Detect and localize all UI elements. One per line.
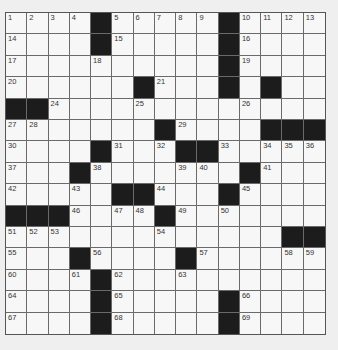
grid-cell[interactable]: [134, 120, 155, 141]
grid-cell[interactable]: 26: [240, 99, 261, 120]
grid-cell[interactable]: [282, 291, 303, 312]
grid-cell[interactable]: 66: [240, 291, 261, 312]
grid-cell[interactable]: [27, 56, 48, 77]
grid-cell[interactable]: [261, 291, 282, 312]
grid-cell[interactable]: 47: [112, 206, 133, 227]
grid-cell[interactable]: 15: [112, 34, 133, 55]
grid-cell[interactable]: [112, 163, 133, 184]
grid-cell[interactable]: [282, 270, 303, 291]
grid-cell[interactable]: 48: [134, 206, 155, 227]
grid-cell[interactable]: [70, 291, 91, 312]
grid-cell[interactable]: [197, 184, 218, 205]
grid-cell[interactable]: 14: [6, 34, 27, 55]
grid-cell[interactable]: [134, 248, 155, 269]
grid-cell[interactable]: 17: [6, 56, 27, 77]
grid-cell[interactable]: 57: [197, 248, 218, 269]
grid-cell[interactable]: 45: [240, 184, 261, 205]
grid-cell[interactable]: 18: [91, 56, 112, 77]
grid-cell[interactable]: [282, 56, 303, 77]
grid-cell[interactable]: 34: [261, 141, 282, 162]
grid-cell[interactable]: 30: [6, 141, 27, 162]
grid-cell[interactable]: [49, 141, 70, 162]
grid-cell[interactable]: 19: [240, 56, 261, 77]
grid-cell[interactable]: [70, 56, 91, 77]
grid-cell[interactable]: 51: [6, 227, 27, 248]
grid-cell[interactable]: [134, 291, 155, 312]
grid-cell[interactable]: 67: [6, 313, 27, 334]
grid-cell[interactable]: [282, 163, 303, 184]
grid-cell[interactable]: 27: [6, 120, 27, 141]
grid-cell[interactable]: 25: [134, 99, 155, 120]
grid-cell[interactable]: [49, 56, 70, 77]
grid-cell[interactable]: [261, 184, 282, 205]
grid-cell[interactable]: 64: [6, 291, 27, 312]
grid-cell[interactable]: 60: [6, 270, 27, 291]
grid-cell[interactable]: [219, 227, 240, 248]
grid-cell[interactable]: [134, 270, 155, 291]
grid-cell[interactable]: [304, 270, 325, 291]
grid-cell[interactable]: [49, 291, 70, 312]
grid-cell[interactable]: 53: [49, 227, 70, 248]
grid-cell[interactable]: [70, 34, 91, 55]
grid-cell[interactable]: 68: [112, 313, 133, 334]
grid-cell[interactable]: [197, 34, 218, 55]
grid-cell[interactable]: 43: [70, 184, 91, 205]
grid-cell[interactable]: [112, 248, 133, 269]
grid-cell[interactable]: [49, 270, 70, 291]
grid-cell[interactable]: [49, 163, 70, 184]
grid-cell[interactable]: [197, 270, 218, 291]
grid-cell[interactable]: [70, 141, 91, 162]
grid-cell[interactable]: [261, 270, 282, 291]
grid-cell[interactable]: [91, 184, 112, 205]
grid-cell[interactable]: [27, 34, 48, 55]
grid-cell[interactable]: [261, 313, 282, 334]
grid-cell[interactable]: 28: [27, 120, 48, 141]
grid-cell[interactable]: [134, 56, 155, 77]
grid-cell[interactable]: 7: [155, 13, 176, 34]
grid-cell[interactable]: [155, 248, 176, 269]
grid-cell[interactable]: [240, 248, 261, 269]
grid-cell[interactable]: [27, 141, 48, 162]
grid-cell[interactable]: 65: [112, 291, 133, 312]
grid-cell[interactable]: [49, 120, 70, 141]
grid-cell[interactable]: [70, 120, 91, 141]
grid-cell[interactable]: [112, 56, 133, 77]
grid-cell[interactable]: [197, 206, 218, 227]
grid-cell[interactable]: [134, 227, 155, 248]
grid-cell[interactable]: [176, 34, 197, 55]
grid-cell[interactable]: [91, 77, 112, 98]
grid-cell[interactable]: 32: [155, 141, 176, 162]
grid-cell[interactable]: 37: [6, 163, 27, 184]
grid-cell[interactable]: [70, 313, 91, 334]
grid-cell[interactable]: [134, 313, 155, 334]
grid-cell[interactable]: [304, 34, 325, 55]
grid-cell[interactable]: 46: [70, 206, 91, 227]
grid-cell[interactable]: [282, 313, 303, 334]
grid-cell[interactable]: [155, 163, 176, 184]
grid-cell[interactable]: [197, 313, 218, 334]
grid-cell[interactable]: [49, 34, 70, 55]
grid-cell[interactable]: [282, 77, 303, 98]
grid-cell[interactable]: [27, 184, 48, 205]
grid-cell[interactable]: 62: [112, 270, 133, 291]
grid-cell[interactable]: [49, 77, 70, 98]
grid-cell[interactable]: [219, 248, 240, 269]
grid-cell[interactable]: [27, 291, 48, 312]
grid-cell[interactable]: [134, 141, 155, 162]
grid-cell[interactable]: 40: [197, 163, 218, 184]
grid-cell[interactable]: [27, 163, 48, 184]
grid-cell[interactable]: [304, 291, 325, 312]
grid-cell[interactable]: [304, 313, 325, 334]
grid-cell[interactable]: [112, 120, 133, 141]
grid-cell[interactable]: [176, 227, 197, 248]
grid-cell[interactable]: [155, 270, 176, 291]
grid-cell[interactable]: [91, 206, 112, 227]
grid-cell[interactable]: 42: [6, 184, 27, 205]
grid-cell[interactable]: 69: [240, 313, 261, 334]
grid-cell[interactable]: 2: [27, 13, 48, 34]
grid-cell[interactable]: [197, 120, 218, 141]
grid-cell[interactable]: [261, 56, 282, 77]
grid-cell[interactable]: [261, 34, 282, 55]
grid-cell[interactable]: 50: [219, 206, 240, 227]
grid-cell[interactable]: [91, 120, 112, 141]
